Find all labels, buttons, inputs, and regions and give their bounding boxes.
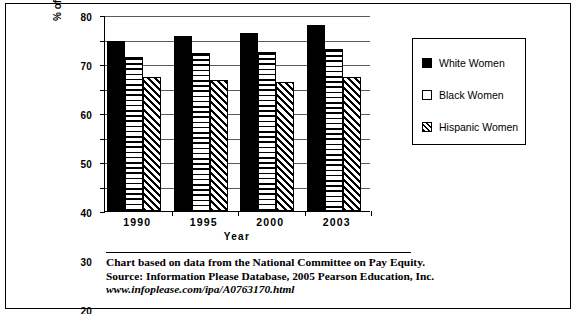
bar-group: [307, 16, 361, 211]
legend-swatch-icon: [422, 90, 432, 100]
footer-url[interactable]: www.infoplease.com/ipa/A0763170.html: [106, 283, 446, 297]
bar-hispanic-women-1990: [143, 77, 161, 211]
bar-white-women-1990: [107, 41, 125, 211]
bar-series-container: [105, 16, 370, 211]
bar-group: [240, 16, 294, 211]
bar-hispanic-women-1995: [210, 80, 228, 211]
y-axis-tick: 0: [100, 212, 105, 213]
x-tick-label-1990: 1990: [123, 216, 151, 228]
plot-area: 01020304050607080: [104, 16, 370, 212]
y-tick-label: 40: [80, 208, 92, 219]
y-tick-label: 50: [80, 159, 92, 170]
bar-black-women-2003: [325, 49, 343, 211]
legend-item-white-women[interactable]: White Women: [422, 48, 525, 78]
chart-figure: % of White Men's 01020304050607080 19901…: [0, 0, 577, 314]
y-tick-label: 70: [80, 61, 92, 72]
y-tick-label: 30: [80, 257, 92, 268]
legend-swatch-icon: [422, 122, 432, 132]
bar-white-women-2000: [240, 33, 258, 211]
bar-black-women-1995: [192, 53, 210, 211]
bar-white-women-1995: [174, 36, 192, 211]
legend-label: White Women: [439, 57, 505, 69]
bar-white-women-2003: [307, 25, 325, 211]
bar-group: [107, 16, 161, 211]
bar-hispanic-women-2000: [276, 82, 294, 211]
legend-label: Black Women: [439, 89, 504, 101]
footer-divider: [106, 252, 411, 253]
chart-legend: White WomenBlack WomenHispanic Women: [412, 38, 526, 145]
legend-item-black-women[interactable]: Black Women: [422, 80, 525, 110]
x-axis-tick: [371, 211, 372, 216]
x-axis-title: Year: [104, 231, 370, 242]
bar-black-women-2000: [258, 52, 276, 211]
bar-group: [174, 16, 228, 211]
y-axis-title: % of White Men's: [52, 0, 63, 45]
y-tick-label: 60: [80, 110, 92, 121]
y-tick-label: 80: [80, 12, 92, 23]
legend-swatch-icon: [422, 58, 432, 68]
footer-database-note: Source: Information Please Database, 200…: [106, 270, 446, 284]
legend-item-hispanic-women[interactable]: Hispanic Women: [422, 112, 525, 142]
x-tick-label-2003: 2003: [323, 216, 351, 228]
y-tick-label: 20: [80, 306, 92, 314]
bar-black-women-1990: [125, 57, 143, 211]
x-tick-label-1995: 1995: [190, 216, 218, 228]
footer-source-note: Chart based on data from the National Co…: [106, 256, 446, 270]
bar-hispanic-women-2003: [343, 77, 361, 211]
x-tick-label-2000: 2000: [256, 216, 284, 228]
legend-label: Hispanic Women: [439, 121, 518, 133]
footer-notes: Chart based on data from the National Co…: [106, 256, 446, 297]
x-tick-labels: 1990199520002003: [104, 216, 370, 232]
